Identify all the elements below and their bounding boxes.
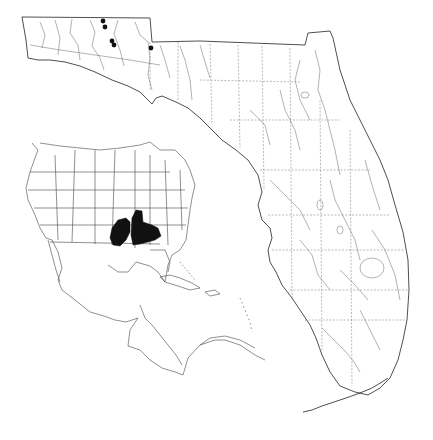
florida-keys xyxy=(303,378,388,412)
ten-thousand-islands xyxy=(322,328,360,372)
occurrence-points xyxy=(101,19,154,51)
lake xyxy=(317,200,323,210)
inset-baja xyxy=(48,240,60,282)
inset-bahamas xyxy=(180,262,195,280)
inset-hispaniola xyxy=(205,290,220,296)
rivers-panhandle xyxy=(30,19,210,100)
inset-north-america xyxy=(26,142,265,375)
inset-range-east xyxy=(131,210,161,245)
lake-okeechobee xyxy=(360,258,384,278)
inset-florida xyxy=(150,250,170,272)
occurrence-dot xyxy=(149,46,154,51)
occurrence-dot xyxy=(101,19,106,24)
inset-lesser-antilles xyxy=(240,298,252,332)
inset-state-lines xyxy=(28,150,188,248)
occurrence-dot xyxy=(103,25,108,30)
occurrence-dot xyxy=(112,43,117,48)
lake xyxy=(301,92,309,98)
florida-outline xyxy=(22,17,409,395)
distribution-map xyxy=(0,0,433,440)
florida-map xyxy=(22,17,409,412)
lake xyxy=(337,226,343,234)
rivers-peninsula xyxy=(250,50,400,350)
county-lines xyxy=(150,42,408,385)
inset-continent-outline xyxy=(26,142,265,375)
